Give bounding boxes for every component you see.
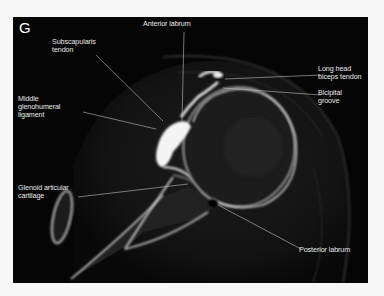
label-bicipital-groove: Bicipital groove [318,89,342,105]
posterior-labrum-spot [208,199,218,207]
label-posterior-labrum: Posterior labrum [299,246,350,254]
label-anterior-labrum: Anterior labrum [143,20,191,28]
label-subscapularis-tendon: Subscapularis tendon [52,38,96,54]
biceps-tendon-spot [213,72,223,78]
ct-image-panel: G Anterior labrum Subscapularis tendon M… [13,17,368,283]
panel-letter: G [19,19,31,36]
ct-scan-graphic [13,17,368,283]
label-long-head-biceps-tendon: Long head biceps tendon [318,65,361,81]
label-middle-glenohumeral-ligament: Middle glenohumeral ligament [18,95,60,120]
label-glenoid-articular-cartilage: Glenoid articular cartilage [18,184,69,200]
